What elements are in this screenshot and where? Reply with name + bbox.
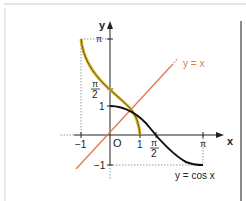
x-label-pi: π (200, 139, 206, 149)
line-y-equals-x (76, 65, 172, 169)
line-y-equals-x-tip (172, 58, 178, 65)
y-axis-arrow-icon (107, 21, 113, 29)
x-axis-arrow-icon (216, 132, 224, 138)
x-label-pi-half-num: π (151, 138, 157, 148)
x-label-1: 1 (137, 139, 143, 150)
y-label-1: 1 (99, 101, 105, 112)
curve-label-cos: y = cos x (175, 170, 215, 181)
x-label-pi-half-den: 2 (151, 148, 157, 159)
y-label-pi: π (96, 34, 102, 44)
y-label-pi-half-num: π (92, 79, 98, 89)
x-label-neg1: −1 (75, 139, 87, 150)
line-label-y-equals-x: y = x (183, 58, 204, 69)
y-label-neg1: −1 (94, 160, 106, 171)
plot-area: y x O π π 2 1 −1 −1 1 π 2 π y = x y = co… (0, 0, 246, 201)
x-axis-label: x (227, 135, 234, 147)
axis-labels: y x O π π 2 1 −1 −1 1 π 2 π (75, 19, 234, 171)
origin-label: O (113, 137, 122, 149)
y-axis-label: y (99, 19, 106, 31)
y-label-pi-half-den: 2 (92, 89, 98, 100)
